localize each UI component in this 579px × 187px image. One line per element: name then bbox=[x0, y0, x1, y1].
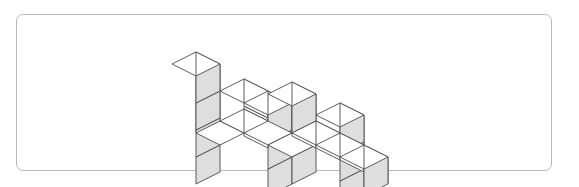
isometric-cube-drawing bbox=[0, 0, 579, 187]
figure-canvas bbox=[0, 0, 579, 187]
cube-group bbox=[172, 52, 388, 187]
